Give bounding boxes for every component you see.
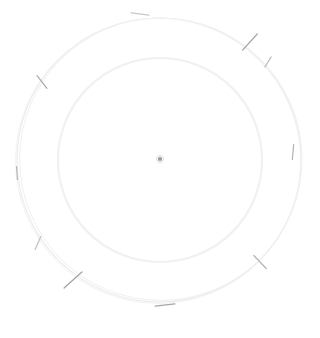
figure-background	[0, 0, 320, 338]
center-point	[158, 157, 162, 161]
figure-canvas: Two concentric circles with center point…	[0, 0, 320, 338]
concentric-circles-figure	[0, 0, 320, 338]
